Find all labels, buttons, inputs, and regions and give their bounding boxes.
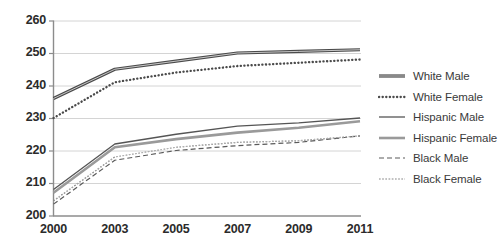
legend-label: White Male: [413, 70, 470, 82]
legend-item[interactable]: Black Female: [378, 169, 502, 190]
legend-label: Hispanic Male: [413, 111, 484, 123]
series-line-inner: [54, 136, 361, 201]
x-axis-tick-label: 2003: [85, 222, 145, 236]
x-axis-tick-label: 2000: [24, 222, 84, 236]
y-axis-tick-label: 230: [4, 110, 46, 124]
y-axis-tick-label: 210: [4, 175, 46, 189]
legend-label: White Female: [413, 91, 483, 103]
legend-item[interactable]: Hispanic Male: [378, 107, 502, 128]
x-axis-tick-label: 2005: [146, 222, 206, 236]
series-lines: [54, 50, 361, 204]
x-axis-tick-label: 2011: [330, 222, 390, 236]
legend-swatch-icon: [378, 90, 406, 104]
legend-item[interactable]: White Female: [378, 87, 502, 108]
y-axis-tick-label: 250: [4, 45, 46, 59]
legend-swatch-icon: [378, 172, 406, 186]
series-line: [54, 136, 361, 204]
series-line: [54, 118, 361, 190]
series-line: [54, 121, 361, 193]
series-line: [54, 136, 361, 201]
legend-item[interactable]: Black Male: [378, 148, 502, 169]
y-axis-tick-label: 220: [4, 143, 46, 157]
y-axis-tick-label: 200: [4, 208, 46, 222]
legend-swatch-icon: [378, 151, 406, 165]
series-line: [54, 60, 361, 119]
legend-swatch-icon: [378, 131, 406, 145]
legend-label: Black Female: [413, 173, 481, 185]
y-axis-tick-label: 260: [4, 13, 46, 27]
legend-swatch-icon: [378, 110, 406, 124]
legend-label: Black Male: [413, 152, 468, 164]
legend-label: Hispanic Female: [413, 132, 497, 144]
line-chart: 200210220230240250260 200020032005200720…: [0, 0, 502, 250]
legend-swatch-icon: [378, 69, 406, 83]
y-axis-tick-label: 240: [4, 78, 46, 92]
chart-legend: White MaleWhite FemaleHispanic MaleHispa…: [378, 66, 502, 189]
legend-item[interactable]: Hispanic Female: [378, 128, 502, 149]
x-axis-tick-label: 2007: [207, 222, 267, 236]
legend-item[interactable]: White Male: [378, 66, 502, 87]
x-axis-tick-label: 2009: [269, 222, 329, 236]
